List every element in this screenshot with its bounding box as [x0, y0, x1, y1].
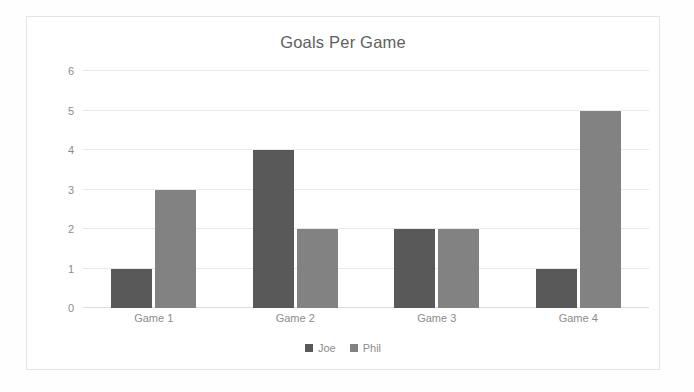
- y-axis-tick-label: 4: [68, 144, 74, 156]
- x-axis-tick-label: Game 4: [508, 312, 650, 324]
- bar-slot: [111, 71, 152, 308]
- y-axis-tick-label: 5: [68, 105, 74, 117]
- bar-phil-game-2[interactable]: [297, 229, 338, 308]
- bar-slot: [155, 71, 196, 308]
- x-axis-labels: Game 1Game 2Game 3Game 4: [83, 312, 649, 324]
- legend-label: Phil: [363, 342, 381, 354]
- legend-item-joe[interactable]: Joe: [305, 342, 336, 354]
- legend-item-phil[interactable]: Phil: [350, 342, 381, 354]
- chart-title: Goals Per Game: [27, 33, 659, 52]
- bar-phil-game-4[interactable]: [580, 111, 621, 309]
- chart-frame: Goals Per Game 0123456 Game 1Game 2Game …: [26, 16, 660, 370]
- legend-swatch-icon: [305, 344, 313, 352]
- bar-slot: [438, 71, 479, 308]
- legend-label: Joe: [318, 342, 336, 354]
- bar-group: [83, 71, 225, 308]
- y-axis-tick-label: 1: [68, 263, 74, 275]
- y-axis-tick-label: 2: [68, 223, 74, 235]
- bar-joe-game-1[interactable]: [111, 269, 152, 308]
- y-axis-tick-label: 6: [68, 65, 74, 77]
- bar-joe-game-4[interactable]: [536, 269, 577, 308]
- bar-phil-game-3[interactable]: [438, 229, 479, 308]
- y-axis-tick-label: 3: [68, 184, 74, 196]
- bar-slot: [297, 71, 338, 308]
- bar-group: [225, 71, 367, 308]
- bar-joe-game-3[interactable]: [394, 229, 435, 308]
- x-axis-tick-label: Game 1: [83, 312, 225, 324]
- x-axis-tick-label: Game 3: [366, 312, 508, 324]
- bar-slot: [394, 71, 435, 308]
- x-axis-tick-label: Game 2: [225, 312, 367, 324]
- bar-series-container: [83, 71, 649, 308]
- bar-slot: [580, 71, 621, 308]
- chart-page: Goals Per Game 0123456 Game 1Game 2Game …: [0, 0, 694, 392]
- legend-swatch-icon: [350, 344, 358, 352]
- bar-joe-game-2[interactable]: [253, 150, 294, 308]
- bar-group: [366, 71, 508, 308]
- bar-group: [508, 71, 650, 308]
- y-axis-tick-label: 0: [68, 302, 74, 314]
- bar-phil-game-1[interactable]: [155, 190, 196, 309]
- plot-area: 0123456: [83, 71, 649, 308]
- chart-legend: JoePhil: [27, 342, 659, 354]
- bar-slot: [536, 71, 577, 308]
- bar-slot: [253, 71, 294, 308]
